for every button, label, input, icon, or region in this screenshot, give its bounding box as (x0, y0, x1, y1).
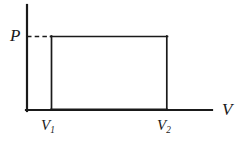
v1-subscript: 1 (50, 125, 55, 135)
pv-diagram-figure: P V V1 V2 (0, 0, 247, 141)
pressure-axis-label: P (10, 27, 20, 44)
v1-base: V (41, 117, 50, 133)
volume-axis-label: V (222, 101, 232, 118)
v1-tick-label: V1 (41, 118, 55, 133)
v2-tick-label: V2 (157, 118, 171, 133)
v2-base: V (157, 117, 166, 133)
diagram-canvas (0, 0, 247, 141)
v2-subscript: 2 (166, 125, 171, 135)
